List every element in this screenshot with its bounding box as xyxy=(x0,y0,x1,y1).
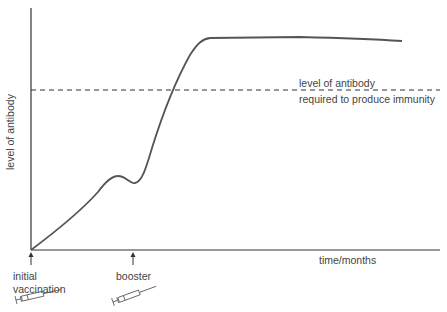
initial-vaccination-label-line1: initial xyxy=(13,270,37,282)
booster-arrow-icon xyxy=(131,252,136,265)
initial-vaccination-label-line2: vaccination xyxy=(13,283,66,295)
x-axis-label: time/months xyxy=(319,254,376,266)
initial-vaccination-arrow-icon xyxy=(29,252,34,265)
booster-label: booster xyxy=(116,270,151,282)
threshold-label-line2: required to produce immunity xyxy=(299,93,435,105)
threshold-label-line1: level of antibody xyxy=(299,77,375,89)
antibody-curve xyxy=(31,37,402,250)
syringe-icon xyxy=(112,283,158,306)
antibody-diagram xyxy=(0,0,447,312)
y-axis-label: level of antibody xyxy=(4,94,16,170)
